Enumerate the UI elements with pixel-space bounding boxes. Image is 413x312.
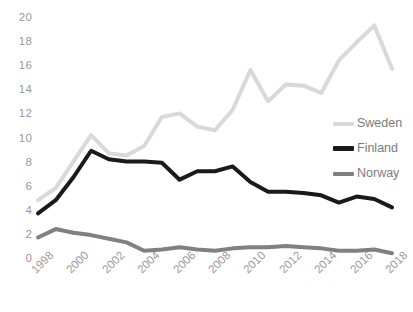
x-tick-label: 2016 bbox=[348, 249, 375, 276]
x-tick-label: 2014 bbox=[312, 249, 339, 276]
legend-item-sweden: Sweden bbox=[333, 111, 413, 136]
legend-item-finland: Finland bbox=[333, 136, 413, 161]
x-tick-label: 2000 bbox=[64, 249, 91, 276]
legend-swatch-finland bbox=[333, 146, 354, 151]
legend-label-finland: Finland bbox=[357, 142, 398, 155]
x-tick-label: 2010 bbox=[241, 249, 268, 276]
x-tick-label: 1998 bbox=[29, 249, 56, 276]
chart-legend: Sweden Finland Norway bbox=[333, 111, 413, 186]
x-tick-label: 2002 bbox=[100, 249, 127, 276]
legend-swatch-sweden bbox=[333, 122, 354, 126]
legend-swatch-norway bbox=[333, 172, 354, 176]
line-chart: 02468101214161820 1998200020022004200620… bbox=[0, 0, 413, 312]
legend-label-sweden: Sweden bbox=[357, 117, 402, 130]
x-tick-label: 2006 bbox=[171, 249, 198, 276]
x-tick-label: 2012 bbox=[277, 249, 304, 276]
legend-item-norway: Norway bbox=[333, 161, 413, 186]
x-tick-label: 2004 bbox=[135, 249, 162, 276]
legend-label-norway: Norway bbox=[357, 167, 399, 180]
x-tick-label: 2008 bbox=[206, 249, 233, 276]
x-tick-label: 2018 bbox=[383, 249, 410, 276]
